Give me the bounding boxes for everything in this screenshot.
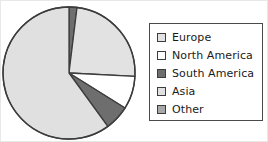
pie-svg [1,1,143,142]
pie-slice-europe[interactable] [69,7,135,76]
legend-label-europe: Europe [172,32,211,43]
chart-legend: Europe North America South America Asia … [149,23,263,121]
legend-swatch-europe [157,33,166,42]
legend-label-other: Other [172,104,204,115]
legend-swatch-asia [157,87,166,96]
legend-label-north-america: North America [172,50,253,61]
legend-swatch-south-america [157,69,166,78]
legend-swatch-north-america [157,51,166,60]
legend-item-south-america[interactable]: South America [157,65,262,82]
legend-label-asia: Asia [172,86,195,97]
legend-item-other[interactable]: Other [157,101,262,118]
legend-item-north-america[interactable]: North America [157,47,262,64]
legend-label-south-america: South America [172,68,254,79]
legend-swatch-other [157,105,166,114]
pie-chart-figure: Europe North America South America Asia … [0,0,268,142]
legend-item-asia[interactable]: Asia [157,83,262,100]
legend-item-europe[interactable]: Europe [157,29,262,46]
pie-plot-area [1,1,143,142]
